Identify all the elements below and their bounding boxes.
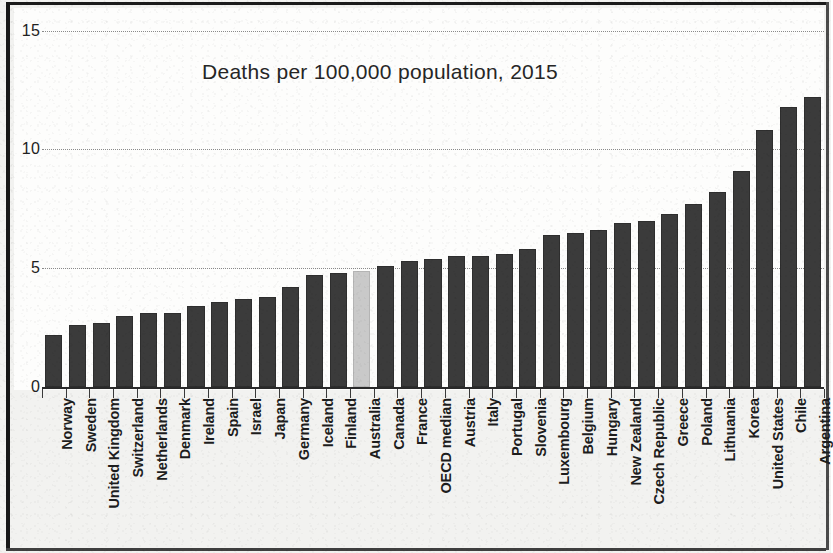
bar [661,214,678,387]
x-axis-tick-label: United States [770,398,786,489]
bar [140,313,157,387]
bar [472,256,489,387]
x-axis-tick [445,389,446,398]
x-axis-tick [777,389,778,398]
x-axis-tick [350,389,351,398]
bar [116,316,133,387]
x-axis-tick-label: Germany [296,398,312,460]
x-axis-tick-label: Iceland [320,398,336,447]
bar [330,273,347,387]
x-axis-tick-label: Belgium [580,398,596,455]
bar [377,266,394,387]
y-axis-tick-label: 15 [6,22,40,40]
x-axis-tick-label: Israel [248,398,264,435]
x-axis-tick-label: Japan [272,398,288,439]
x-axis-tick [208,389,209,398]
x-axis-tick [232,389,233,398]
x-axis-tick-label: France [414,398,430,445]
x-axis-tick [374,389,375,398]
x-axis-tick [303,389,304,398]
x-axis-tick [42,389,43,398]
bar [685,204,702,387]
bar [756,130,773,387]
bar [638,221,655,387]
bar [804,97,821,387]
x-axis-tick [113,389,114,398]
bar [282,287,299,387]
x-axis-tick [137,389,138,398]
x-axis-tick-label: Chile [793,398,809,433]
x-axis-tick [824,389,825,398]
bar-series [42,8,824,387]
bar [353,271,370,387]
x-axis-tick-label: Czech Republic [651,398,667,505]
x-axis-ticks [42,389,824,398]
x-axis-tick [279,389,280,398]
x-axis-tick [255,389,256,398]
bar [45,335,62,387]
bar [306,275,323,387]
bar [235,299,252,387]
x-axis-tick-label: United Kingdom [106,398,122,509]
bar [259,297,276,387]
y-axis-tick-label: 10 [6,140,40,158]
x-axis-tick [800,389,801,398]
x-axis-tick-label: OECD median [438,398,454,494]
x-axis-tick [706,389,707,398]
y-axis-tick-label: 0 [6,378,40,396]
bar [187,306,204,387]
x-axis-tick-label: Hungary [604,398,620,456]
bar [519,249,536,387]
x-axis-tick [89,389,90,398]
figure-border-top [6,2,826,5]
x-axis-tick-label: New Zealand [628,398,644,486]
x-axis-tick [66,389,67,398]
bar [733,171,750,387]
x-axis-tick-label: Sweden [83,398,99,452]
x-axis-tick-label: Argentina [817,398,833,465]
x-axis-tick-label: Switzerland [130,398,146,477]
bar [69,325,86,387]
bar [543,235,560,387]
bar [614,223,631,387]
bar [401,261,418,387]
x-axis-tick-label: Poland [699,398,715,446]
x-axis-tick-label: Ireland [201,398,217,445]
x-axis-tick-label: Greece [675,398,691,447]
x-axis-tick-label: Finland [343,398,359,449]
bar [93,323,110,387]
figure-border-bottom [6,548,826,551]
x-axis-tick [469,389,470,398]
bar [590,230,607,387]
bar [448,256,465,387]
x-axis-tick-label: Australia [367,398,383,459]
x-axis-tick-label: Luxembourg [556,398,572,485]
x-axis-tick-label: Spain [225,398,241,437]
bar [164,313,181,387]
x-axis-tick [540,389,541,398]
x-axis-tick-label: Canada [391,398,407,450]
x-axis-tick-label: Norway [59,398,75,450]
x-axis-tick-label: Portugal [509,398,525,456]
bar [211,302,228,388]
y-axis-tick-label: 5 [6,259,40,277]
x-axis-tick-label: Italy [485,398,501,427]
bar [424,259,441,387]
x-axis-tick [611,389,612,398]
bar [709,192,726,387]
figure-border-right [826,2,829,550]
x-axis-labels: NorwaySwedenUnited KingdomSwitzerlandNet… [42,398,824,548]
x-axis-tick [326,389,327,398]
x-axis-tick [563,389,564,398]
x-axis-tick-label: Austria [462,398,478,447]
x-axis-tick [184,389,185,398]
bar [567,233,584,387]
x-axis-tick [587,389,588,398]
x-axis-tick [421,389,422,398]
x-axis-tick [634,389,635,398]
x-axis-tick [160,389,161,398]
x-axis-tick [516,389,517,398]
x-axis-tick [397,389,398,398]
x-axis-tick-label: Korea [746,398,762,439]
